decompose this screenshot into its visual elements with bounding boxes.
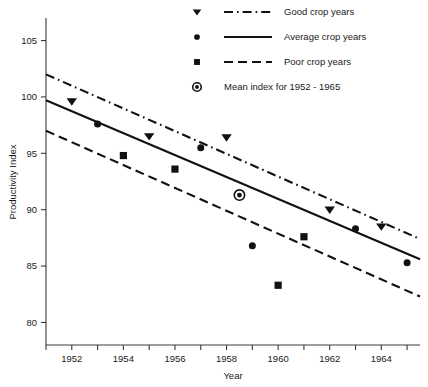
legend-label: Good crop years <box>284 6 354 17</box>
marker-square <box>194 59 200 65</box>
legend-item: Good crop years <box>193 6 355 17</box>
y-tick-label: 100 <box>21 91 37 102</box>
legend-item: Average crop years <box>194 31 366 42</box>
y-tick-label: 80 <box>26 317 37 328</box>
x-tick-label: 1952 <box>61 353 82 364</box>
marker-circle <box>404 259 411 266</box>
trend-lines-group <box>46 74 420 296</box>
productivity-index-chart: 80859095100105 1952195419561958196019621… <box>0 0 428 387</box>
marker-square <box>300 233 307 240</box>
marker-square <box>120 152 127 159</box>
marker-triangle-down <box>193 9 202 15</box>
marker-mean-dot <box>237 193 242 198</box>
x-tick-label: 1962 <box>319 353 340 364</box>
marker-circle <box>194 34 200 40</box>
marker-circle <box>249 242 256 249</box>
trend-line-solid <box>46 100 420 259</box>
marker-mean-dot <box>195 85 199 89</box>
trend-line-dashed <box>46 131 420 297</box>
legend-item: Mean index for 1952 - 1965 <box>193 81 340 92</box>
y-tick-label: 90 <box>26 204 37 215</box>
marker-triangle-down <box>376 223 386 230</box>
x-tick-label: 1956 <box>164 353 185 364</box>
y-tick-label: 95 <box>26 148 37 159</box>
marker-circle <box>352 225 359 232</box>
chart-svg: 80859095100105 1952195419561958196019621… <box>0 0 428 387</box>
y-tick-label: 85 <box>26 260 37 271</box>
y-axis-ticks: 80859095100105 <box>21 35 46 328</box>
marker-triangle-down <box>325 206 335 213</box>
legend-label: Poor crop years <box>284 56 351 67</box>
y-tick-label: 105 <box>21 35 37 46</box>
x-tick-label: 1958 <box>216 353 237 364</box>
chart-axes <box>46 18 420 345</box>
marker-triangle-down <box>144 133 154 140</box>
marker-triangle-down <box>221 134 231 141</box>
marker-square <box>171 165 178 172</box>
x-tick-label: 1964 <box>371 353 392 364</box>
x-tick-label: 1954 <box>113 353 134 364</box>
legend-item: Poor crop years <box>194 56 351 67</box>
marker-square <box>275 282 282 289</box>
chart-legend: Good crop yearsAverage crop yearsPoor cr… <box>193 6 367 92</box>
axis-lines <box>46 18 420 345</box>
x-axis-title: Year <box>223 370 242 381</box>
legend-label: Mean index for 1952 - 1965 <box>224 81 340 92</box>
data-markers-group <box>67 98 411 289</box>
x-axis-ticks: 1952195419561958196019621964 <box>46 345 407 364</box>
marker-triangle-down <box>67 98 77 105</box>
legend-label: Average crop years <box>284 31 366 42</box>
x-tick-label: 1960 <box>268 353 289 364</box>
y-axis-title: Productivity Index <box>7 144 18 219</box>
marker-circle <box>197 144 204 151</box>
marker-circle <box>94 120 101 127</box>
